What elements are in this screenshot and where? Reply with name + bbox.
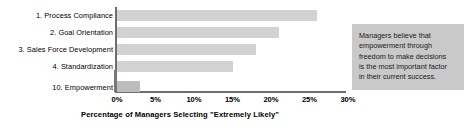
category-axis-labels: 1. Process Compliance 2. Goal Orientatio… — [0, 6, 113, 92]
tick-label-0: 0% — [104, 95, 130, 104]
x-axis-title: Percentage of Managers Selecting "Extrem… — [0, 110, 360, 119]
category-label-2: 2. Goal Orientation — [0, 29, 113, 37]
callout-line-4: is the most important factor — [359, 62, 458, 72]
bar-process-compliance — [117, 10, 317, 21]
bar-chart-figure: 1. Process Compliance 2. Goal Orientatio… — [0, 0, 466, 134]
category-label-4: 4. Standardization — [0, 63, 113, 71]
callout-line-1: Managers believe that — [359, 31, 458, 41]
callout-box: Managers believe that empowerment throug… — [352, 24, 464, 90]
callout-line-5: in their current success. — [359, 72, 458, 82]
category-label-1: 1. Process Compliance — [0, 12, 113, 20]
category-label-5: 10. Empowerment — [0, 84, 113, 92]
tick-label-10: 10% — [181, 95, 207, 104]
bar-goal-orientation — [117, 27, 279, 38]
bar-sales-force-development — [117, 44, 256, 55]
callout-line-3: freedom to make decisions — [359, 52, 458, 62]
category-label-3: 3. Sales Force Development — [0, 46, 113, 54]
tick-label-5: 5% — [143, 95, 169, 104]
callout-line-2: empowerment through — [359, 41, 458, 51]
tick-label-30: 30% — [335, 95, 361, 104]
bar-empowerment — [117, 81, 140, 92]
chart-plot-area: 1. Process Compliance 2. Goal Orientatio… — [0, 0, 360, 134]
tick-label-20: 20% — [258, 95, 284, 104]
tick-label-15: 15% — [220, 95, 246, 104]
bar-series — [117, 6, 357, 92]
bar-standardization — [117, 61, 233, 72]
value-axis-ticks: 0% 5% 10% 15% 20% 25% 30% — [0, 95, 360, 107]
tick-label-25: 25% — [297, 95, 323, 104]
